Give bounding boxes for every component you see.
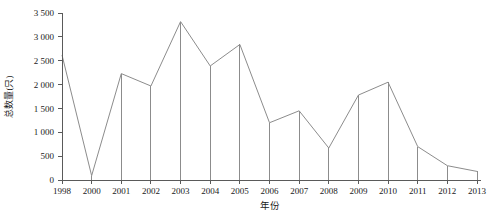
x-tick-label-2009: 2009 [349, 186, 368, 196]
x-tick-label-1998: 1998 [53, 186, 72, 196]
y-tick-label-3500: 3 500 [34, 8, 55, 18]
data-drop-line-group [62, 22, 477, 180]
y-tick-label-0: 0 [50, 175, 55, 185]
y-tick-label-2500: 2 500 [34, 56, 55, 66]
x-tick-label-2004: 2004 [201, 186, 220, 196]
y-axis-label-group: 05001 0001 5002 0002 5003 0003 500 [34, 8, 55, 185]
x-axis-label-group: 1998200020012002200320042005200620072008… [53, 186, 487, 196]
x-tick-label-2007: 2007 [290, 186, 309, 196]
y-tick-label-1000: 1 000 [34, 127, 55, 137]
x-tick-label-2012: 2012 [438, 186, 456, 196]
x-tick-label-2008: 2008 [320, 186, 339, 196]
x-axis-title: 年份 [260, 200, 280, 211]
chart-figure: 05001 0001 5002 0002 5003 0003 500 19982… [0, 0, 488, 214]
x-tick-label-2006: 2006 [261, 186, 280, 196]
y-tick-label-1500: 1 500 [34, 104, 55, 114]
x-axis-tick-group [62, 180, 477, 184]
line-chart-canvas: 05001 0001 5002 0002 5003 0003 500 19982… [0, 0, 488, 214]
y-tick-label-3000: 3 000 [34, 32, 55, 42]
y-tick-label-500: 500 [41, 151, 55, 161]
x-tick-label-2003: 2003 [172, 186, 191, 196]
x-tick-label-2005: 2005 [231, 186, 250, 196]
y-axis-title: 总数量(只) [3, 76, 14, 118]
x-tick-label-2001: 2001 [112, 186, 130, 196]
x-tick-label-2000: 2000 [83, 186, 102, 196]
x-tick-label-2002: 2002 [142, 186, 160, 196]
y-tick-label-2000: 2 000 [34, 80, 55, 90]
y-axis-tick-group [58, 13, 62, 180]
x-tick-label-2011: 2011 [409, 186, 427, 196]
x-tick-label-2013: 2013 [468, 186, 487, 196]
x-tick-label-2010: 2010 [379, 186, 398, 196]
